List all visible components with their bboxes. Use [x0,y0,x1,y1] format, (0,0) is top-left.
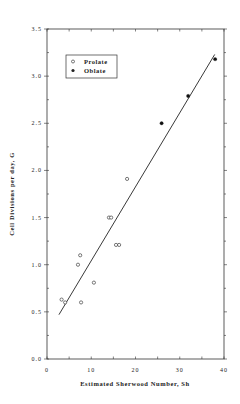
axis-ticks [44,29,227,359]
prolate-point [92,281,95,284]
y-tick-labels: 0.00.51.01.52.02.53.03.5 [32,26,43,362]
legend-label-oblate: Oblate [84,67,106,74]
prolate-point [125,177,128,180]
prolate-point [110,216,113,219]
oblate-point [160,122,163,125]
legend: Prolate Oblate [66,55,117,78]
y-tick-label: 0.5 [32,309,43,315]
x-tick-labels: 010203040 [45,367,228,373]
y-axis-title: Cell Divisions per day, G [8,152,15,236]
prolate-point [79,301,82,304]
y-tick-label: 3.5 [32,26,43,32]
y-tick-label: 1.0 [32,262,43,268]
prolate-point [114,243,117,246]
plot-axes [47,29,224,359]
prolate-point [118,243,121,246]
x-tick-label: 10 [87,367,95,373]
y-tick-label: 3.0 [32,73,43,79]
oblate-point [186,94,189,97]
prolate-point [64,301,67,304]
y-tick-label: 1.5 [32,215,43,221]
x-tick-label: 40 [220,367,228,373]
prolate-point [60,298,63,301]
open-circle-icon [72,60,75,63]
regression-line [59,54,215,314]
legend-label-prolate: Prolate [84,58,108,65]
plot-frame [47,29,224,359]
data-points [60,57,217,304]
prolate-point [79,254,82,257]
y-tick-label: 2.5 [32,120,43,126]
fit-line [59,54,215,314]
y-tick-label: 2.0 [32,167,43,173]
y-tick-label: 0.0 [32,356,43,362]
oblate-point [213,57,216,60]
filled-circle-icon [71,69,74,72]
scatter-chart: 010203040 0.00.51.01.52.02.53.03.5 Estim… [0,0,240,404]
x-tick-label: 20 [132,367,140,373]
prolate-point [76,263,79,266]
x-tick-label: 30 [176,367,184,373]
x-tick-label: 0 [45,367,49,373]
x-axis-title: Estimated Sherwood Number, Sh [80,380,190,387]
